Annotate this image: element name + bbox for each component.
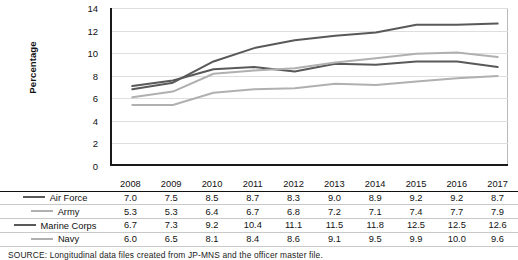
table-cell: 7.7	[436, 205, 477, 219]
table-cell: 8.1	[192, 233, 233, 247]
table-cell: 9.6	[477, 233, 518, 247]
y-axis-tick: 0	[93, 161, 98, 172]
table-row: Air Force7.07.58.58.78.39.08.99.29.28.7	[0, 191, 518, 205]
table-cell: 5.3	[151, 205, 192, 219]
legend-line-swatch	[23, 196, 45, 198]
table-cell: 6.7	[110, 219, 151, 233]
table-cell: 5.3	[110, 205, 151, 219]
table-body: Air Force7.07.58.58.78.39.08.99.29.28.7A…	[0, 191, 518, 246]
table-cell: 11.8	[355, 219, 396, 233]
table-column-header: 2008	[110, 178, 151, 191]
table-cell: 7.1	[355, 205, 396, 219]
table-cell: 12.6	[477, 219, 518, 233]
legend-label: Army	[58, 206, 80, 219]
table-column-header: 2014	[355, 178, 396, 191]
table-row: Navy6.06.58.18.48.69.19.59.910.09.6	[0, 233, 518, 247]
table-cell: 8.3	[273, 191, 314, 205]
series-line	[132, 76, 497, 105]
table-cell: 12.5	[436, 219, 477, 233]
y-axis-tick: 8	[93, 70, 98, 81]
table-cell: 11.5	[314, 219, 355, 233]
table-row: Army5.35.36.46.76.87.27.17.47.77.9	[0, 205, 518, 219]
table-column-header: 2016	[436, 178, 477, 191]
table-column-header: 2013	[314, 178, 355, 191]
y-axis-tick: 10	[87, 48, 98, 59]
table-header-row: 2008200920102011201220132014201520162017	[0, 178, 518, 191]
y-axis-tick: 6	[93, 93, 98, 104]
legend-item: Army	[0, 205, 110, 219]
table-column-header: 2009	[151, 178, 192, 191]
table-cell: 6.7	[232, 205, 273, 219]
table-cell: 12.5	[396, 219, 437, 233]
table-cell: 9.9	[396, 233, 437, 247]
table-cell: 7.0	[110, 191, 151, 205]
table-column-header: 2017	[477, 178, 518, 191]
table-cell: 8.4	[232, 233, 273, 247]
table-cell: 7.9	[477, 205, 518, 219]
table-row: Marine Corps6.77.39.210.411.111.511.812.…	[0, 219, 518, 233]
table-cell: 7.3	[151, 219, 192, 233]
table-column-header: 2015	[396, 178, 437, 191]
table-series-header	[0, 178, 110, 191]
table-column-header: 2010	[192, 178, 233, 191]
table-cell: 8.7	[477, 191, 518, 205]
table-cell: 10.0	[436, 233, 477, 247]
table-cell: 11.1	[273, 219, 314, 233]
table-cell: 8.9	[355, 191, 396, 205]
series-lines	[112, 8, 508, 164]
table-cell: 9.1	[314, 233, 355, 247]
table-cell: 8.5	[192, 191, 233, 205]
table-cell: 7.2	[314, 205, 355, 219]
table-cell: 6.5	[151, 233, 192, 247]
legend-item: Navy	[0, 233, 110, 247]
line-chart: Percentage 14121086420	[0, 0, 518, 178]
y-axis-title: Percentage	[27, 8, 38, 128]
legend-label: Navy	[58, 233, 79, 246]
legend-line-swatch	[31, 238, 53, 240]
legend-item: Air Force	[0, 191, 110, 205]
y-axis-tick: 4	[93, 115, 98, 126]
table-column-header: 2011	[232, 178, 273, 191]
y-axis-tick: 12	[87, 25, 98, 36]
table-cell: 6.4	[192, 205, 233, 219]
y-axis-tick-labels: 14121086420	[72, 8, 98, 166]
table-column-header: 2012	[273, 178, 314, 191]
legend-item: Marine Corps	[0, 219, 110, 233]
table-cell: 7.4	[396, 205, 437, 219]
table-cell: 9.2	[436, 191, 477, 205]
table-cell: 6.0	[110, 233, 151, 247]
legend-line-swatch	[31, 210, 53, 212]
table-cell: 6.8	[273, 205, 314, 219]
plot-area	[110, 8, 508, 166]
table-cell: 7.5	[151, 191, 192, 205]
table-cell: 9.2	[192, 219, 233, 233]
y-axis-tick: 14	[87, 3, 98, 14]
y-axis-tick: 2	[93, 138, 98, 149]
table-cell: 9.2	[396, 191, 437, 205]
table-cell: 9.5	[355, 233, 396, 247]
chart-figure: Percentage 14121086420 20082009201020112…	[0, 0, 518, 260]
table-cell: 9.0	[314, 191, 355, 205]
legend-label: Air Force	[50, 192, 88, 205]
data-table: 2008200920102011201220132014201520162017…	[0, 178, 518, 247]
legend-line-swatch	[14, 224, 36, 226]
source-note: SOURCE: Longitudinal data files created …	[8, 250, 514, 260]
table-cell: 8.7	[232, 191, 273, 205]
table-cell: 10.4	[232, 219, 273, 233]
data-table-wrapper: 2008200920102011201220132014201520162017…	[0, 178, 518, 246]
legend-label: Marine Corps	[41, 220, 97, 233]
table-cell: 8.6	[273, 233, 314, 247]
